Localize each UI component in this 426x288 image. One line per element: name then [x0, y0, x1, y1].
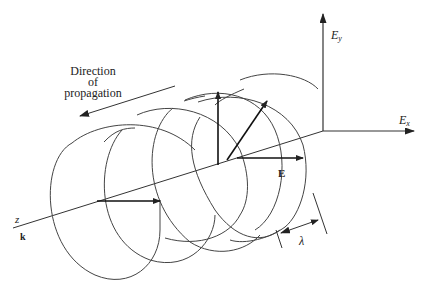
ex-label-sub: x [406, 119, 410, 128]
e-vector-label: E [278, 168, 285, 179]
z-axis-label: z [15, 214, 19, 225]
wavelength-label: λ [299, 235, 304, 247]
z-axis [13, 131, 323, 228]
ey-label: Ey [331, 29, 342, 43]
direction-label: Direction of propagation [53, 66, 133, 99]
e-vector-diagonal [227, 101, 267, 160]
ey-label-sub: y [338, 34, 342, 43]
k-vector-label: k [20, 232, 26, 242]
diagram-canvas [0, 0, 426, 288]
ex-label: Ex [399, 114, 410, 128]
polarization-diagram: Direction of propagation Ey Ex E z k λ [0, 0, 426, 288]
direction-label-line3: propagation [53, 88, 133, 99]
